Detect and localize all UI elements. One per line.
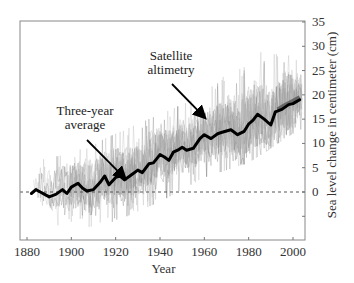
x-axis-title: Year [152, 261, 177, 276]
annotation-label: altimetry [148, 62, 195, 77]
x-tick-label: 1960 [191, 244, 217, 259]
noise-layer [34, 52, 302, 227]
sea-level-chart: 1880190019201940196019802000 05101520253… [0, 0, 354, 283]
annotation-label: average [65, 117, 106, 132]
y-tick-label: 0 [312, 184, 319, 199]
x-tick-label: 1880 [14, 244, 40, 259]
y-tick-label: 5 [312, 160, 319, 175]
annotation-arrow [172, 84, 204, 117]
x-tick-label: 1920 [103, 244, 129, 259]
annotation-label: Three-year [56, 103, 114, 118]
annotation-label: Satellite [150, 48, 193, 63]
x-tick-label: 2000 [280, 244, 306, 259]
x-tick-label: 1940 [147, 244, 173, 259]
x-tick-label: 1980 [236, 244, 262, 259]
y-axis-title: Sea level change in centimeter (cm) [324, 32, 339, 219]
x-tick-label: 1900 [58, 244, 84, 259]
y-tick-label: 35 [312, 14, 325, 29]
